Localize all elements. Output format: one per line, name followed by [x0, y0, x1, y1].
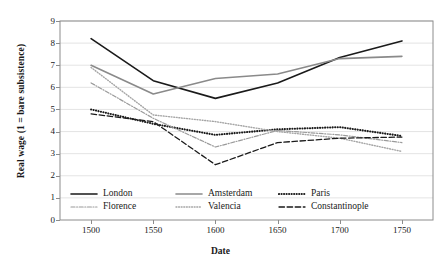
legend-swatch	[175, 202, 203, 212]
legend-swatch	[70, 189, 98, 199]
plot-area	[0, 0, 441, 266]
series-line-amsterdam	[91, 56, 402, 94]
series-line-florence	[91, 83, 402, 147]
chart-container: Real wage (1 = bare subsistence) Date 01…	[0, 0, 441, 266]
legend-swatch	[278, 202, 306, 212]
legend-swatch	[278, 189, 306, 199]
legend-label: Paris	[311, 188, 330, 198]
legend-swatch	[175, 189, 203, 199]
series-line-paris	[91, 109, 402, 136]
legend-label: Valencia	[208, 201, 241, 211]
legend-label: Florence	[103, 201, 136, 211]
legend-swatch	[70, 202, 98, 212]
series-line-london	[91, 39, 402, 99]
legend-label: Constantinople	[311, 201, 369, 211]
legend-label: London	[103, 188, 133, 198]
legend-label: Amsterdam	[208, 188, 252, 198]
